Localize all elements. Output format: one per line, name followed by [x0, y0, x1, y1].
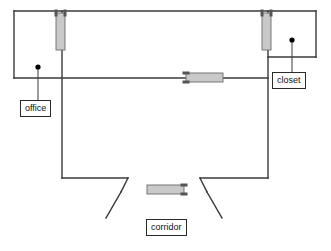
- door-office-south-hinge-0: [183, 72, 190, 75]
- door-closet-north-hinge-1: [270, 10, 273, 17]
- wall-corridor-splay-left: [121, 178, 128, 192]
- door-office-north-panel: [56, 13, 65, 50]
- label-leader-lines: [35, 37, 294, 100]
- door-corridor-panel: [147, 185, 184, 194]
- room-label-office: office: [20, 100, 51, 117]
- door-office-south-panel: [186, 73, 223, 82]
- wall-corridor-leg-left: [106, 192, 121, 218]
- door-office-south: [183, 72, 224, 84]
- door-closet-north-panel: [262, 13, 271, 50]
- wall-corridor-splay-right: [200, 178, 207, 192]
- marker-dot-office: [35, 64, 40, 69]
- wall-corridor-leg-right: [207, 192, 222, 218]
- floor-plan-canvas: [0, 0, 331, 251]
- room-label-corridor: corridor: [146, 219, 187, 236]
- door-corridor: [147, 184, 188, 196]
- door-closet-north: [261, 10, 273, 51]
- door-office-south-hinge-1: [183, 81, 190, 84]
- room-label-closet: closet: [272, 72, 306, 89]
- door-office-north-hinge-1: [64, 10, 67, 17]
- door-office-north-hinge-0: [55, 10, 58, 17]
- floor-plan-diagram: office closet corridor: [0, 0, 331, 251]
- marker-dot-closet: [289, 37, 294, 42]
- door-office-north: [55, 10, 67, 51]
- door-corridor-hinge-0: [181, 184, 188, 187]
- door-closet-north-hinge-0: [261, 10, 264, 17]
- door-symbols: [55, 10, 273, 196]
- door-corridor-hinge-1: [181, 193, 188, 196]
